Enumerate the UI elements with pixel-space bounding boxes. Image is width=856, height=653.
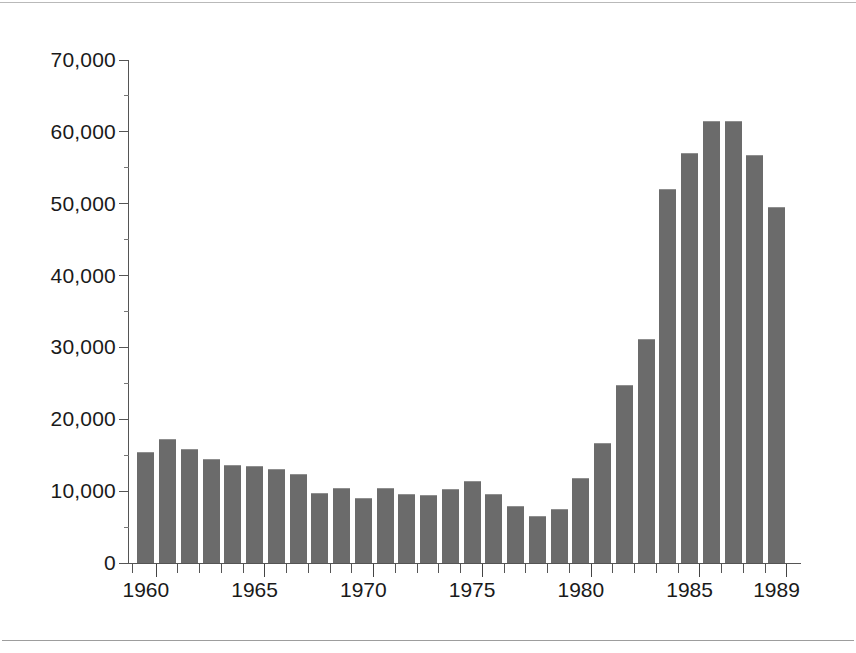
bar (333, 488, 350, 563)
bar (355, 498, 372, 563)
y-axis-tick-label-text: 10,000 (4, 480, 116, 501)
x-axis-major-tick (482, 564, 483, 577)
y-axis-tick-label-text: 40,000 (4, 265, 116, 286)
x-axis-minor-tick (286, 564, 287, 573)
y-axis-tick-label-text: 70,000 (4, 49, 116, 70)
x-axis-minor-tick (569, 564, 570, 573)
x-axis-tick-label: 1970 (340, 578, 387, 602)
bar (464, 481, 481, 563)
bar (659, 189, 676, 563)
bar (137, 452, 154, 563)
bar (768, 207, 785, 563)
bar (746, 155, 763, 563)
bar (268, 469, 285, 563)
x-axis-minor-tick (634, 564, 635, 573)
bar (485, 494, 502, 563)
y-axis-tick-label-text: 0 (4, 552, 116, 573)
bar (529, 516, 546, 563)
x-axis-tick-label: 1965 (231, 578, 278, 602)
x-axis-minor-tick (678, 564, 679, 573)
y-axis-tick-label-text: 30,000 (4, 336, 116, 357)
x-axis-minor-tick (132, 564, 133, 573)
x-axis-minor-tick (460, 564, 461, 573)
x-axis-major-tick (373, 564, 374, 577)
bar (246, 466, 263, 563)
y-axis-tick-label-text: 20,000 (4, 408, 116, 429)
x-axis-minor-tick (765, 564, 766, 573)
x-axis-minor-tick (547, 564, 548, 573)
x-axis-major-tick (699, 564, 700, 577)
x-axis-minor-tick (395, 564, 396, 573)
bar-series (128, 60, 800, 563)
bar (725, 121, 742, 563)
x-axis-minor-tick (177, 564, 178, 573)
bar (551, 509, 568, 563)
x-axis-minor-tick (656, 564, 657, 573)
x-axis-minor-tick (438, 564, 439, 573)
x-axis-minor-tick (743, 564, 744, 573)
x-axis-major-tick (786, 564, 787, 577)
x-axis-line (128, 563, 801, 564)
x-axis-minor-tick (221, 564, 222, 573)
bar (203, 459, 220, 563)
bar (224, 465, 241, 563)
bar (507, 506, 524, 563)
bar (616, 385, 633, 563)
bar (572, 478, 589, 563)
x-axis-minor-tick (199, 564, 200, 573)
x-axis-tick-label: 1989 (753, 578, 800, 602)
x-axis-minor-tick (612, 564, 613, 573)
x-axis-major-tick (591, 564, 592, 577)
bar (311, 493, 328, 563)
bar (159, 439, 176, 563)
bar (290, 474, 307, 563)
bar-chart-figure: 010,00020,00030,00040,00050,00060,00070,… (0, 0, 856, 653)
x-axis-minor-tick (525, 564, 526, 573)
bar (442, 489, 459, 563)
x-axis-major-tick (264, 564, 265, 577)
y-axis-tick-label-text: 50,000 (4, 193, 116, 214)
x-axis-minor-tick (351, 564, 352, 573)
x-axis-minor-tick (308, 564, 309, 573)
bar (638, 339, 655, 563)
x-axis-minor-tick (243, 564, 244, 573)
x-axis-minor-tick (417, 564, 418, 573)
x-axis-tick-label: 1960 (123, 578, 170, 602)
bar (681, 153, 698, 563)
x-axis-minor-tick (504, 564, 505, 573)
bar (703, 121, 720, 563)
bar (594, 443, 611, 563)
bar (377, 488, 394, 563)
x-axis-tick-label: 1980 (557, 578, 604, 602)
x-axis-tick-label: 1985 (666, 578, 713, 602)
x-axis-minor-tick (330, 564, 331, 573)
y-axis-tick-label-text: 60,000 (4, 121, 116, 142)
x-axis-major-tick (156, 564, 157, 577)
bar (420, 495, 437, 563)
x-axis-minor-tick (721, 564, 722, 573)
bar (181, 449, 198, 563)
bar (398, 494, 415, 563)
x-axis-tick-label: 1975 (449, 578, 496, 602)
